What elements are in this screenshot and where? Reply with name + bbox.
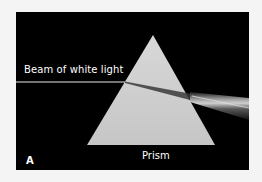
panel-letter: A bbox=[26, 156, 34, 166]
prism-label: Prism bbox=[142, 151, 170, 161]
prism-shape bbox=[87, 35, 215, 145]
prism-illustration bbox=[16, 12, 249, 170]
prism-diagram-panel: Beam of white light Prism A bbox=[16, 12, 249, 170]
beam-label: Beam of white light bbox=[24, 65, 124, 75]
